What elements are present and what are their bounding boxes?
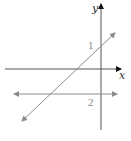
- y-axis-label: y: [91, 2, 99, 15]
- coordinate-diagram: y x 1 2: [0, 0, 131, 141]
- line-1-label: 1: [88, 39, 94, 51]
- x-axis-label: x: [119, 69, 126, 82]
- line-2-label: 2: [88, 96, 94, 108]
